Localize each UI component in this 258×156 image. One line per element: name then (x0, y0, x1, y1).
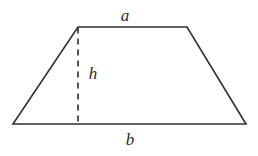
trapezoid-outline (13, 27, 246, 124)
trapezoid-figure: a h b (0, 0, 258, 156)
label-height-h: h (89, 65, 98, 82)
label-bottom-side-b: b (126, 131, 135, 148)
label-top-side-a: a (121, 7, 130, 24)
